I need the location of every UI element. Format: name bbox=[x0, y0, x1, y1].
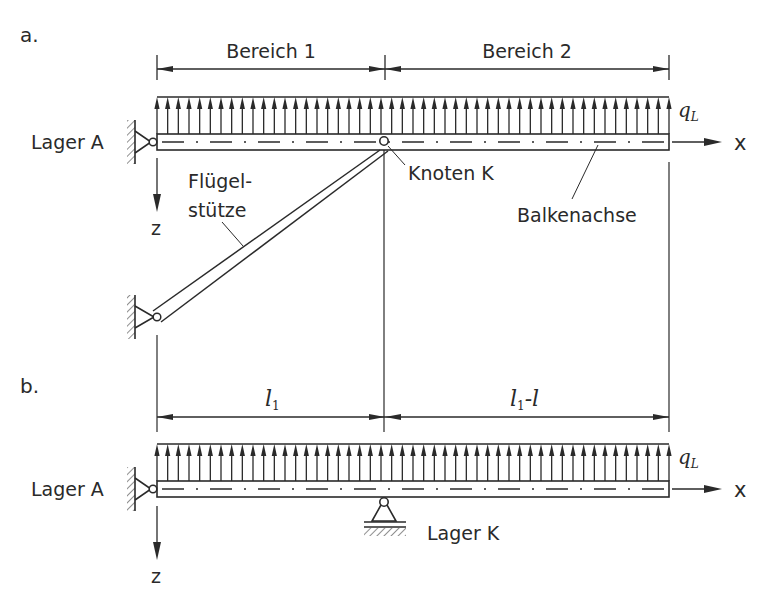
distributed-load-b bbox=[154, 444, 671, 481]
dim-l1-label: l1 bbox=[265, 386, 280, 413]
support-a-label-top: Lager A bbox=[31, 131, 104, 153]
z-axis-label-a: z bbox=[151, 217, 161, 239]
panel-b-label: b. bbox=[20, 374, 39, 398]
load-label-a: qL bbox=[678, 98, 699, 124]
distributed-load-a bbox=[154, 97, 671, 134]
beam-diagram: a. Bereich 1 Bereich 2 qL x bbox=[0, 0, 770, 605]
beam-axis-label: Balkenachse bbox=[517, 204, 637, 226]
support-k bbox=[364, 498, 406, 536]
strut-leader bbox=[222, 222, 243, 246]
dim-l1-minus-l-label: l1-l bbox=[510, 386, 539, 413]
strut-label-line2: stütze bbox=[188, 199, 247, 221]
z-axis-arrow-b bbox=[153, 506, 161, 560]
support-a-top bbox=[127, 120, 157, 164]
region-2-label: Bereich 2 bbox=[482, 40, 572, 62]
x-axis-arrow-b bbox=[672, 485, 722, 493]
panel-b: b. l1 l1-l qL x Lager A bbox=[20, 374, 746, 587]
support-a-label-bottom: Lager A bbox=[31, 478, 104, 500]
z-axis-label-b: z bbox=[151, 565, 161, 587]
support-strut-bottom bbox=[127, 295, 161, 339]
panel-a-label: a. bbox=[20, 23, 39, 47]
support-k-label: Lager K bbox=[427, 522, 500, 544]
x-axis-label-b: x bbox=[734, 478, 746, 502]
extension-lines bbox=[157, 150, 669, 432]
z-axis-arrow-a bbox=[153, 158, 161, 212]
x-axis-label-a: x bbox=[734, 131, 746, 155]
node-k-label: Knoten K bbox=[408, 162, 494, 184]
node-k bbox=[380, 137, 388, 145]
region-1-label: Bereich 1 bbox=[226, 40, 316, 62]
support-a-bottom bbox=[127, 467, 157, 511]
strut-label-line1: Flügel- bbox=[188, 170, 252, 192]
beam-axis-leader bbox=[572, 145, 598, 199]
load-label-b: qL bbox=[678, 445, 699, 471]
x-axis-arrow-a bbox=[672, 138, 722, 146]
dimension-line-b bbox=[157, 414, 669, 420]
panel-a: a. Bereich 1 Bereich 2 qL x bbox=[20, 23, 746, 339]
